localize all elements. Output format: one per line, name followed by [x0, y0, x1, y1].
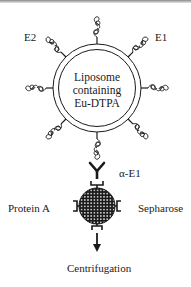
label-antibody: α-E1: [119, 167, 141, 179]
diagram-canvas: [0, 0, 191, 287]
label-centrifugation: Centrifugation: [67, 262, 131, 274]
sepharose-bead: [79, 188, 115, 224]
liposome-label-line-1: Liposome: [62, 71, 132, 84]
arrow-down-icon: [93, 233, 101, 252]
antibody-icon: [90, 163, 104, 179]
label-protein-a: Protein A: [8, 202, 50, 214]
label-e2: E2: [24, 31, 36, 43]
label-sepharose: Sepharose: [138, 202, 183, 214]
liposome-label-line-3: Eu-DTPA: [62, 97, 132, 110]
liposome-label-line-2: containing: [62, 84, 132, 97]
label-e1: E1: [155, 31, 167, 43]
liposome-label: Liposome containing Eu-DTPA: [62, 71, 132, 110]
